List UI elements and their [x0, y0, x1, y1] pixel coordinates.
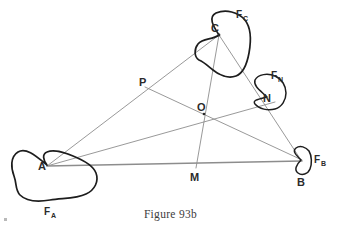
region-label-FB-sub: B: [321, 160, 326, 167]
region-label-FN-sub: N: [278, 76, 283, 83]
figure-container: A B C O P M N F A F B F C F N Figure 93b: [0, 0, 341, 240]
region-label-FC: F C: [236, 9, 248, 22]
figure-canvas: A B C O P M N F A F B F C F N: [0, 0, 341, 240]
scan-artifact-mark: [4, 218, 7, 221]
figure-caption: Figure 93b: [0, 208, 341, 220]
point-label-P: P: [139, 76, 146, 88]
point-label-N: N: [263, 92, 271, 104]
point-label-A: A: [38, 160, 46, 172]
region-label-FB: F B: [314, 154, 326, 167]
segment-BC: [219, 35, 301, 160]
point-label-C: C: [211, 22, 219, 34]
region-label-FN: F N: [271, 70, 283, 83]
region-label-FB-base: F: [314, 154, 320, 165]
region-label-FC-sub: C: [243, 15, 248, 22]
segment-AN-cevian: [47, 102, 275, 166]
vertex-dot-C: [218, 34, 221, 37]
region-label-FN-base: F: [271, 70, 277, 81]
point-label-B: B: [297, 176, 305, 188]
region-label-FC-base: F: [236, 9, 242, 20]
point-label-M: M: [190, 171, 199, 183]
vertex-dot-O: [203, 113, 206, 116]
segment-PB-cevian: [145, 87, 302, 160]
point-label-O: O: [197, 101, 206, 113]
region-blob-FA: [12, 151, 97, 201]
segment-AC: [47, 35, 219, 166]
